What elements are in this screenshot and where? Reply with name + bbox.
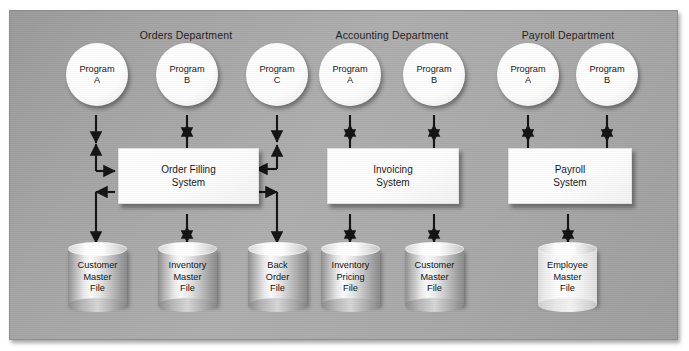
- node-payroll-program-b[interactable]: Program B: [576, 43, 638, 106]
- node-orders-program-a[interactable]: Program A: [66, 43, 128, 106]
- dept-title-orders: Orders Department: [106, 29, 266, 41]
- cylinder-top: [405, 242, 464, 256]
- node-orders-program-b[interactable]: Program B: [156, 43, 218, 106]
- node-accounting-program-b[interactable]: Program B: [403, 43, 465, 106]
- dept-title-payroll: Payroll Department: [488, 29, 648, 41]
- cylinder-top: [538, 242, 597, 256]
- cylinder-top: [68, 242, 127, 256]
- node-label: Customer Master File: [405, 260, 464, 295]
- cylinder-top: [248, 242, 307, 256]
- node-label: Program C: [259, 64, 294, 86]
- diagram-canvas: Orders Department Program A Program B Pr…: [0, 0, 689, 351]
- node-orders-program-c[interactable]: Program C: [246, 43, 308, 106]
- node-label: Payroll System: [553, 163, 586, 189]
- node-accounting-program-a[interactable]: Program A: [319, 43, 381, 106]
- node-label: Inventory Master File: [158, 260, 217, 295]
- node-payroll-program-a[interactable]: Program A: [497, 43, 559, 106]
- node-label: Program A: [79, 64, 114, 86]
- node-label: Program B: [589, 64, 624, 86]
- node-file-back-order[interactable]: Back Order File: [248, 242, 307, 312]
- node-label: Customer Master File: [68, 260, 127, 295]
- node-label: Program B: [169, 64, 204, 86]
- cylinder-bottom: [158, 298, 217, 312]
- node-label: Inventory Pricing File: [321, 260, 380, 295]
- node-file-inventory-master-orders[interactable]: Inventory Master File: [158, 242, 217, 312]
- node-payroll-system[interactable]: Payroll System: [508, 148, 632, 204]
- diagram-frame: Orders Department Program A Program B Pr…: [9, 10, 678, 340]
- cylinder-bottom: [321, 298, 380, 312]
- cylinder-bottom: [538, 298, 597, 312]
- node-label: Employee Master File: [538, 260, 597, 295]
- node-invoicing-system[interactable]: Invoicing System: [327, 148, 459, 204]
- cylinder-bottom: [405, 298, 464, 312]
- node-order-filling-system[interactable]: Order Filling System: [118, 148, 259, 204]
- node-label: Program A: [510, 64, 545, 86]
- dept-title-accounting: Accounting Department: [312, 29, 472, 41]
- node-label: Program B: [416, 64, 451, 86]
- node-file-employee-master[interactable]: Employee Master File: [538, 242, 597, 312]
- node-file-inventory-pricing[interactable]: Inventory Pricing File: [321, 242, 380, 312]
- node-label: Program A: [332, 64, 367, 86]
- node-file-customer-master-orders[interactable]: Customer Master File: [68, 242, 127, 312]
- cylinder-top: [321, 242, 380, 256]
- cylinder-bottom: [68, 298, 127, 312]
- cylinder-top: [158, 242, 217, 256]
- node-label: Invoicing System: [373, 163, 412, 189]
- node-label: Order Filling System: [161, 163, 215, 189]
- node-file-customer-master-accounting[interactable]: Customer Master File: [405, 242, 464, 312]
- cylinder-bottom: [248, 298, 307, 312]
- node-label: Back Order File: [248, 260, 307, 295]
